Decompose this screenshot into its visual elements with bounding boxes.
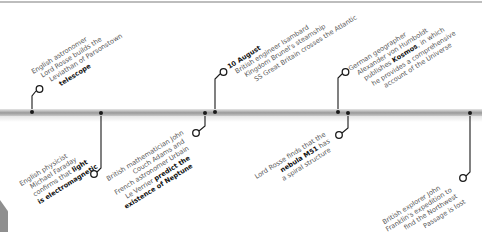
dot-m51	[346, 111, 350, 115]
ring-kosmos	[342, 69, 349, 76]
dot-rosse-telescope	[30, 110, 34, 114]
timeline-page: English astronomer Lord Rosse builds the…	[0, 0, 482, 232]
ring-neptune	[193, 130, 200, 137]
ring-franklin	[460, 175, 467, 182]
dot-franklin	[468, 111, 472, 115]
dot-great-britain	[213, 110, 217, 114]
dot-neptune	[203, 111, 207, 115]
ring-m51	[336, 132, 343, 139]
dot-kosmos	[336, 110, 340, 114]
ring-great-britain	[220, 69, 227, 76]
dot-faraday	[99, 111, 103, 115]
